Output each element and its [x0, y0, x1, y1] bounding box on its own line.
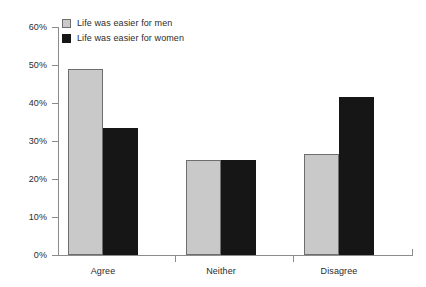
- x-axis-label-disagree: Disagree: [304, 266, 374, 276]
- y-axis-label-20: 20%: [3, 175, 47, 184]
- x-tick-separator-1: [175, 256, 176, 262]
- bar-disagree-women: [339, 97, 374, 255]
- x-axis-label-neither: Neither: [186, 266, 256, 276]
- bar-neither-men: [186, 160, 221, 255]
- bar-neither-women: [221, 160, 256, 255]
- bar-chart: Life was easier for men Life was easier …: [0, 0, 426, 287]
- x-axis-line: [58, 255, 413, 256]
- y-axis-label-50: 50%: [3, 61, 47, 70]
- bar-agree-women: [103, 128, 138, 255]
- x-axis-end-tick: [412, 249, 413, 256]
- y-axis-label-30: 30%: [3, 137, 47, 146]
- y-axis-label-10: 10%: [3, 213, 47, 222]
- x-tick-separator-2: [293, 256, 294, 262]
- x-axis-label-agree: Agree: [68, 266, 138, 276]
- y-tick-0: [52, 255, 58, 256]
- y-axis-label-0: 0%: [3, 251, 47, 260]
- y-axis-label-40: 40%: [3, 99, 47, 108]
- bar-disagree-men: [304, 154, 339, 255]
- plot-area: [58, 27, 412, 255]
- bar-agree-men: [68, 69, 103, 255]
- y-axis-label-60: 60%: [3, 23, 47, 32]
